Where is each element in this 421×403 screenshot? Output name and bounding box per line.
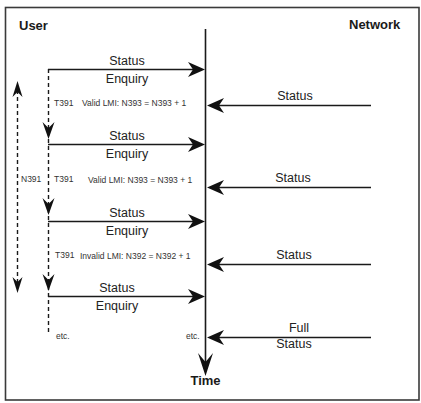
- message-full-status: Full Status: [207, 321, 371, 351]
- diagram-frame: [6, 8, 420, 401]
- timer-note-3: T391 Invalid LMI: N392 = N392 + 1: [55, 250, 191, 261]
- message-status-enquiry-1: Status Enquiry: [48, 54, 205, 86]
- message-label: Status: [276, 337, 311, 351]
- timer-note: Valid LMI: N393 = N393 + 1: [88, 175, 193, 185]
- message-status-3: Status: [207, 248, 371, 272]
- message-label: Enquiry: [106, 72, 149, 86]
- timer-label: T391: [55, 250, 75, 260]
- n391-label: N391: [21, 174, 42, 184]
- arrow-up-icon: [13, 81, 23, 97]
- message-label: Enquiry: [96, 299, 139, 313]
- timer-note-1: T391 Valid LMI: N393 = N393 + 1: [54, 98, 187, 108]
- message-status-2: Status: [207, 171, 371, 195]
- message-label: Status: [99, 281, 134, 295]
- message-label: Enquiry: [106, 147, 149, 161]
- n391-counter-span: N391: [13, 81, 42, 293]
- message-status-enquiry-2: Status Enquiry: [48, 129, 205, 161]
- message-label: Status: [276, 248, 311, 262]
- message-label: Status: [275, 171, 310, 185]
- lmi-sequence-diagram: User Network Time N391 T391 Valid LMI: N…: [0, 0, 421, 403]
- continuation-right: etc.: [186, 331, 200, 341]
- timer-label: T391: [54, 98, 74, 108]
- t391-expiry-arrow-icon: [43, 274, 55, 291]
- timer-note-2: T391 Valid LMI: N393 = N393 + 1: [54, 174, 193, 185]
- t391-expiry-arrow-icon: [43, 198, 55, 215]
- t391-expiry-arrow-icon: [43, 122, 55, 139]
- participant-network: Network: [349, 17, 401, 32]
- message-status-enquiry-3: Status Enquiry: [48, 206, 205, 238]
- message-label: Status: [109, 54, 144, 68]
- message-label: Status: [109, 129, 144, 143]
- timer-note: Valid LMI: N393 = N393 + 1: [82, 98, 187, 108]
- message-label: Enquiry: [106, 224, 149, 238]
- message-label: Status: [109, 206, 144, 220]
- message-label: Status: [277, 89, 312, 103]
- participant-user: User: [19, 18, 48, 33]
- time-label: Time: [190, 373, 220, 388]
- message-status-enquiry-4: Status Enquiry: [48, 281, 205, 313]
- message-status-1: Status: [207, 89, 371, 113]
- timer-note: Invalid LMI: N392 = N392 + 1: [80, 251, 191, 261]
- timer-label: T391: [54, 174, 74, 184]
- message-label: Full: [289, 321, 309, 335]
- continuation-left: etc.: [56, 331, 70, 341]
- user-polling-timeline: [43, 69, 55, 335]
